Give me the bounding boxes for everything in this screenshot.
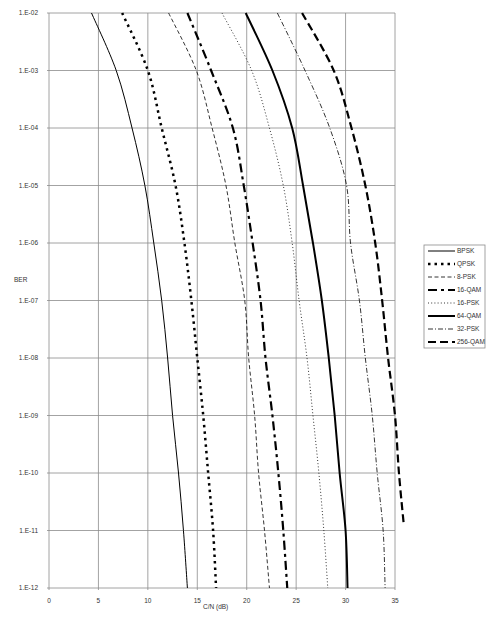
legend-label: 16-QAM bbox=[457, 286, 481, 294]
legend-label: QPSK bbox=[457, 260, 476, 268]
y-tick-label: 1.E-11 bbox=[19, 527, 38, 534]
y-axis-label: BER bbox=[14, 276, 28, 283]
legend: BPSKQPSK8-PSK16-QAM16-PSK64-QAM32-PSK256… bbox=[424, 245, 485, 348]
x-tick-label: 10 bbox=[144, 597, 152, 604]
x-tick-label: 0 bbox=[47, 597, 51, 604]
x-tick-label: 30 bbox=[342, 597, 350, 604]
y-tick-label: 1.E-07 bbox=[19, 297, 39, 304]
x-tick-label: 35 bbox=[391, 597, 399, 604]
y-axis-ticks: 1.E-021.E-031.E-041.E-051.E-061.E-071.E-… bbox=[19, 9, 39, 591]
y-tick-label: 1.E-10 bbox=[19, 469, 39, 476]
legend-label: 16-PSK bbox=[457, 299, 480, 306]
legend-label: 64-QAM bbox=[457, 312, 481, 320]
y-tick-label: 1.E-03 bbox=[19, 67, 39, 74]
y-tick-label: 1.E-09 bbox=[19, 412, 39, 419]
x-tick-label: 20 bbox=[243, 597, 251, 604]
x-tick-label: 15 bbox=[194, 597, 202, 604]
legend-label: 256-QAM bbox=[457, 338, 485, 346]
x-tick-label: 25 bbox=[293, 597, 301, 604]
chart-canvas: 1.E-021.E-031.E-041.E-051.E-061.E-071.E-… bbox=[0, 0, 486, 623]
y-tick-label: 1.E-02 bbox=[19, 9, 39, 16]
legend-label: 32-PSK bbox=[457, 325, 480, 332]
x-axis-label: C/N (dB) bbox=[203, 603, 228, 611]
y-tick-label: 1.E-12 bbox=[19, 584, 39, 591]
ber-chart: 1.E-021.E-031.E-041.E-051.E-061.E-071.E-… bbox=[0, 0, 486, 623]
y-tick-label: 1.E-04 bbox=[19, 124, 39, 131]
legend-label: BPSK bbox=[457, 247, 475, 254]
legend-box bbox=[424, 245, 485, 348]
y-tick-label: 1.E-05 bbox=[19, 182, 39, 189]
legend-label: 8-PSK bbox=[457, 273, 476, 280]
x-tick-label: 5 bbox=[97, 597, 101, 604]
y-tick-label: 1.E-06 bbox=[19, 239, 39, 246]
y-tick-label: 1.E-08 bbox=[19, 354, 39, 361]
